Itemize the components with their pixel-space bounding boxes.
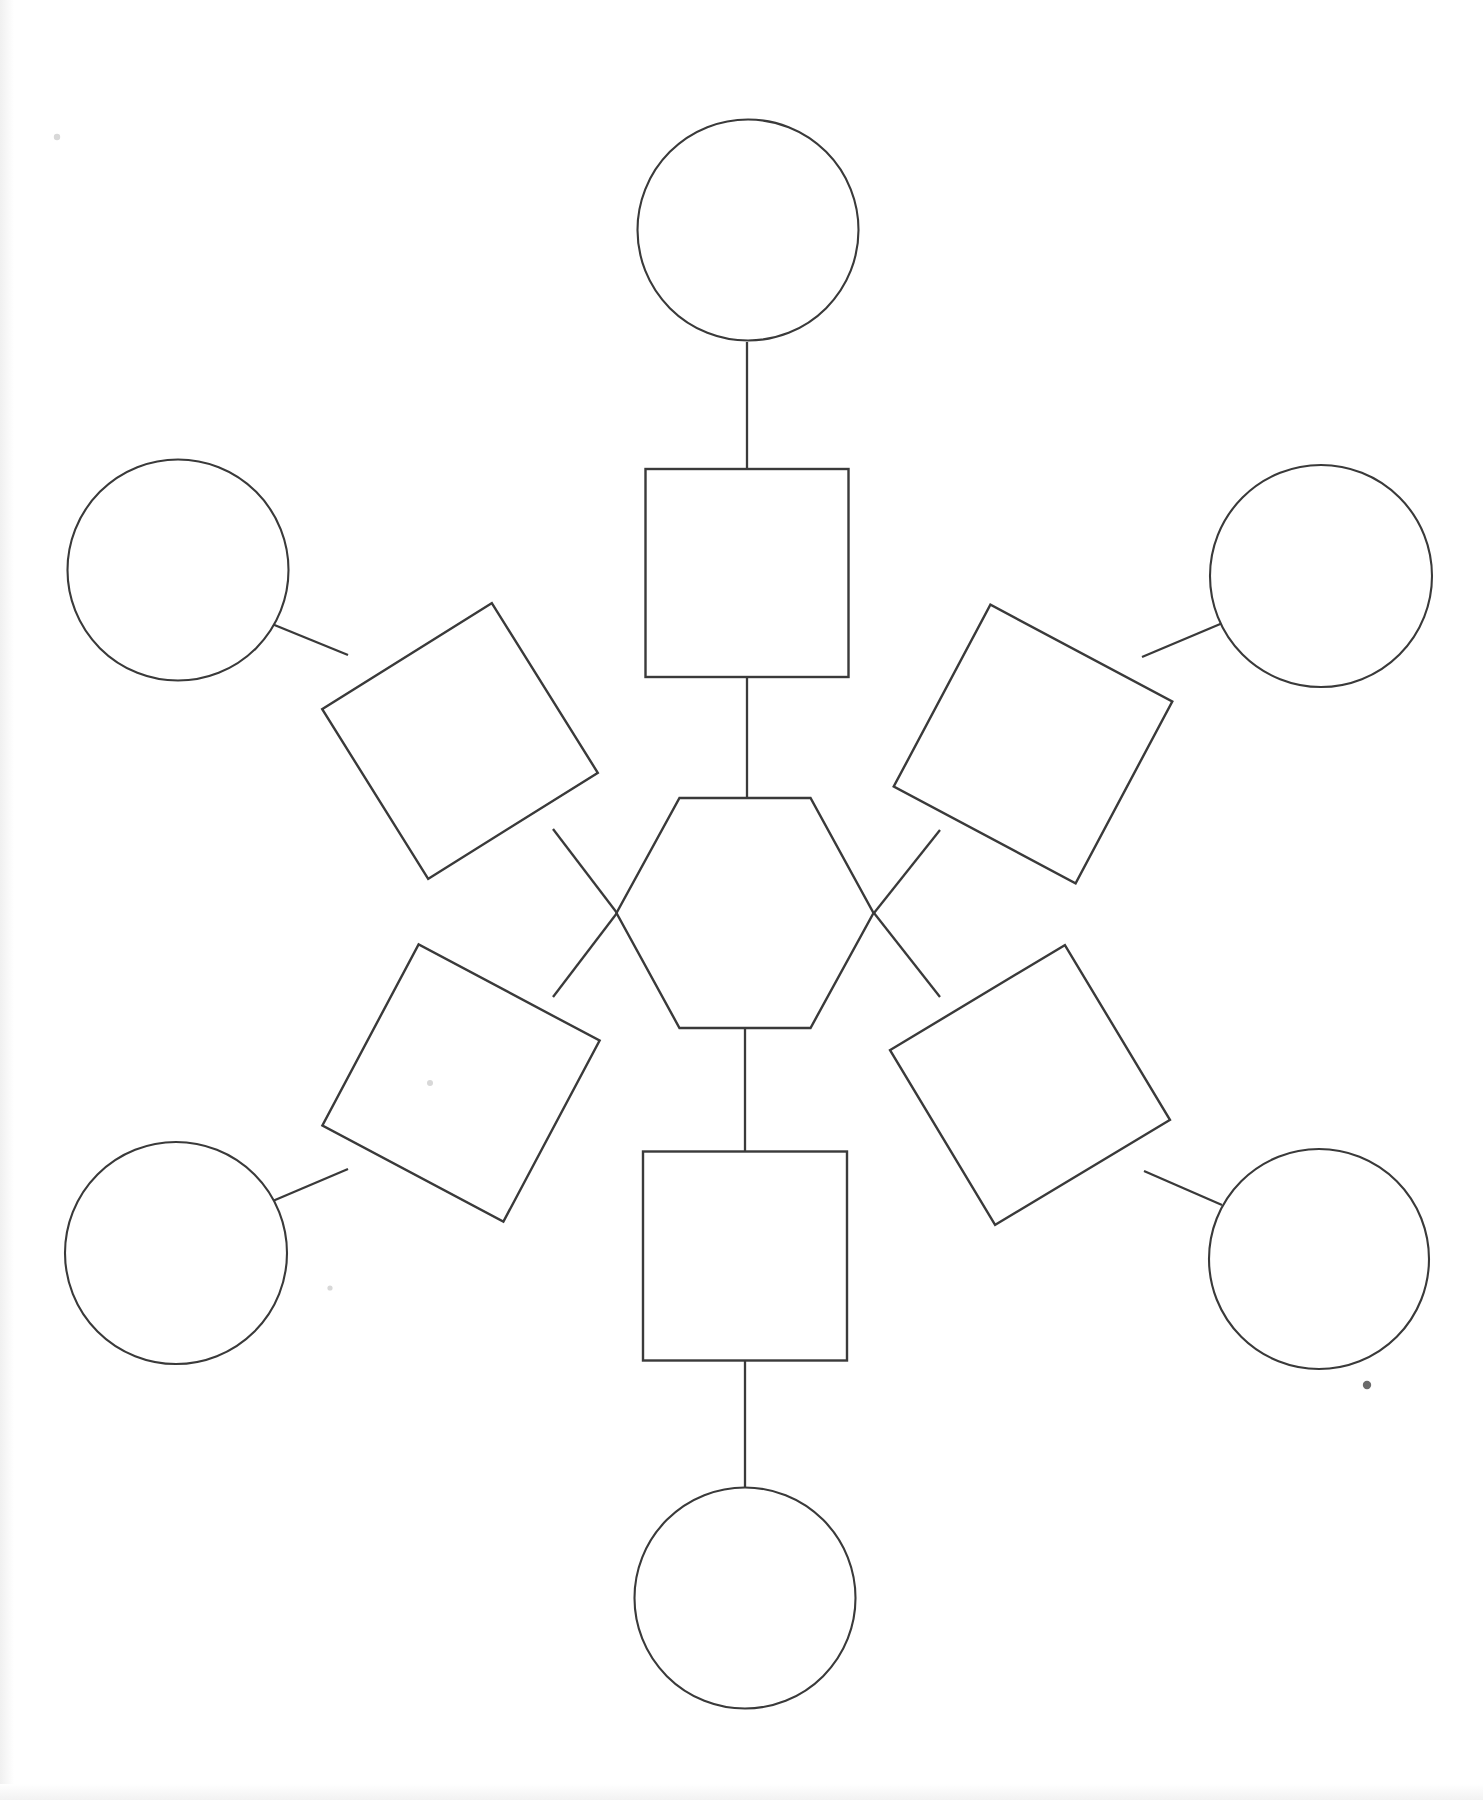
node-branch-top[interactable] [646, 469, 849, 677]
connector-branch-upper-left-to-leaf-upper-left [272, 624, 348, 655]
connector-center-to-branch-upper-right [874, 830, 940, 913]
node-branch-lower-left[interactable] [322, 944, 599, 1221]
connector-center-to-branch-upper-left [553, 829, 617, 913]
speck-top-left [54, 134, 60, 140]
node-branch-upper-right[interactable] [894, 605, 1173, 884]
node-leaf-lower-right[interactable] [1209, 1149, 1429, 1369]
node-leaf-lower-left[interactable] [65, 1142, 287, 1364]
connector-branch-lower-right-to-leaf-lower-right [1144, 1171, 1222, 1205]
node-center[interactable] [617, 798, 874, 1028]
connector-center-to-branch-lower-left [553, 913, 617, 997]
speck-lower-right [1363, 1381, 1371, 1389]
worksheet-page [0, 0, 1483, 1800]
node-leaf-upper-right[interactable] [1210, 465, 1432, 687]
connector-branch-lower-left-to-leaf-lower-left [268, 1169, 348, 1203]
node-leaf-bottom[interactable] [635, 1488, 856, 1709]
connector-branch-upper-right-to-leaf-upper-right [1142, 622, 1225, 657]
node-branch-upper-left[interactable] [322, 603, 598, 879]
node-layer [65, 120, 1432, 1709]
node-branch-bottom[interactable] [643, 1152, 847, 1361]
node-leaf-top[interactable] [638, 120, 859, 341]
speck-mid-left [327, 1285, 332, 1290]
speck-center-left [427, 1080, 433, 1086]
concept-map-diagram [0, 0, 1483, 1800]
node-leaf-upper-left[interactable] [68, 460, 289, 681]
connector-center-to-branch-lower-right [874, 913, 940, 997]
